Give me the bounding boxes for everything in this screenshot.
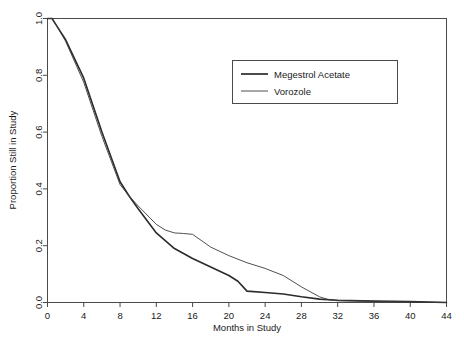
- y-tick-label: 0.8: [33, 69, 44, 82]
- y-tick-label: 1.0: [33, 12, 44, 25]
- x-tick-label: 12: [151, 310, 162, 321]
- legend: Megestrol Acetate Vorozole: [233, 61, 398, 104]
- x-tick-label: 4: [81, 310, 86, 321]
- x-tick-label: 40: [405, 310, 416, 321]
- survival-chart: 048121620242832364044 0.00.20.40.60.81.0…: [0, 0, 464, 346]
- x-tick-label: 16: [187, 310, 198, 321]
- legend-label-vorozole: Vorozole: [274, 86, 311, 97]
- x-axis-title: Months in Study: [213, 322, 281, 333]
- y-tick-label: 0.2: [33, 239, 44, 252]
- x-tick-label: 8: [117, 310, 122, 321]
- y-axis-title: Proportion Still in Study: [7, 110, 18, 209]
- x-tick-label: 32: [332, 310, 343, 321]
- y-tick-label: 0.6: [33, 125, 44, 138]
- y-tick-label: 0.0: [33, 296, 44, 309]
- x-tick-label: 20: [224, 310, 235, 321]
- legend-box: [233, 61, 398, 104]
- x-tick-label: 44: [441, 310, 452, 321]
- x-tick-label: 24: [260, 310, 271, 321]
- x-tick-label: 28: [296, 310, 307, 321]
- y-tick-label: 0.4: [33, 182, 44, 195]
- x-tick-label: 0: [45, 310, 50, 321]
- chart-background: [0, 0, 464, 346]
- x-tick-label: 36: [369, 310, 380, 321]
- legend-label-megestrol-acetate: Megestrol Acetate: [274, 69, 350, 80]
